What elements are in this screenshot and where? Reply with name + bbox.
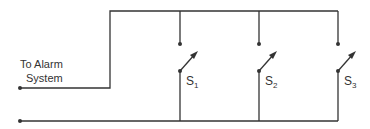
- input-terminal: [18, 86, 22, 90]
- return-terminal: [18, 119, 22, 123]
- alarm-label-line1: To Alarm: [20, 58, 63, 71]
- alarm-label-line2: System: [26, 72, 63, 85]
- switch-label-s1: S1: [186, 74, 198, 90]
- top-wire: [20, 11, 338, 88]
- switch-label-s3: S3: [344, 74, 356, 90]
- switch-label-s2: S2: [265, 74, 277, 90]
